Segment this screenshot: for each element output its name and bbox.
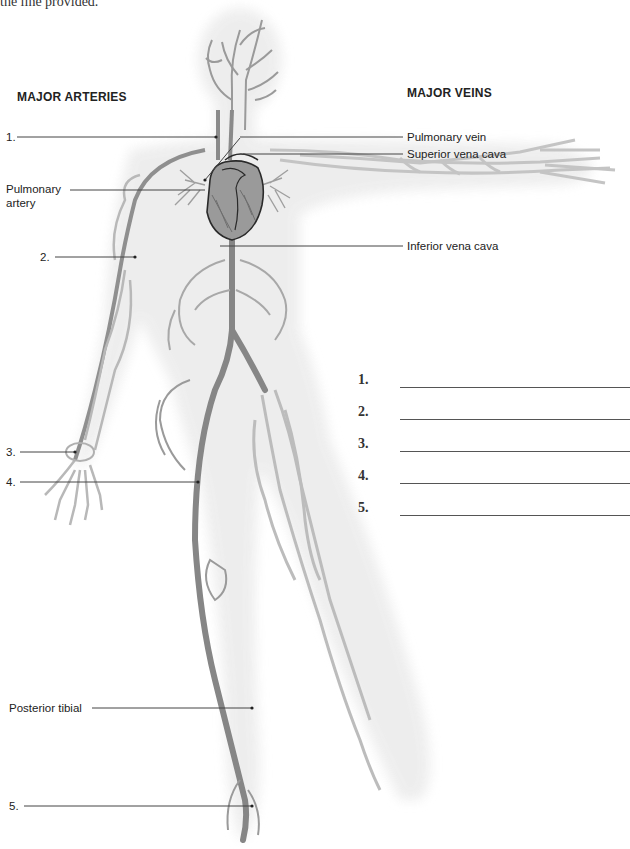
answer-input-1[interactable] bbox=[400, 372, 630, 388]
heading-major-veins: MAJOR VEINS bbox=[407, 86, 492, 100]
answer-input-2[interactable] bbox=[400, 404, 630, 420]
answer-row-5: 5. bbox=[358, 500, 630, 520]
answer-input-3[interactable] bbox=[400, 436, 630, 452]
body-silhouette bbox=[75, 8, 592, 840]
artery-label-2: 2. bbox=[40, 250, 50, 264]
artery-label-3: 3. bbox=[6, 445, 16, 459]
vein-label-superior-vena-cava: Superior vena cava bbox=[407, 147, 506, 161]
artery-label-4: 4. bbox=[6, 475, 16, 489]
answer-input-5[interactable] bbox=[400, 500, 630, 516]
answer-number: 5. bbox=[358, 500, 369, 516]
artery-label-pulmonary-artery: Pulmonary bbox=[6, 182, 61, 196]
answer-number: 2. bbox=[358, 404, 369, 420]
vein-label-inferior-vena-cava: Inferior vena cava bbox=[407, 239, 498, 253]
answer-row-3: 3. bbox=[358, 436, 630, 456]
artery-label-1: 1. bbox=[6, 130, 16, 144]
heading-major-arteries: MAJOR ARTERIES bbox=[17, 90, 127, 104]
artery-label-pulmonary-artery-line2: artery bbox=[6, 196, 35, 210]
answer-number: 1. bbox=[358, 372, 369, 388]
answer-input-4[interactable] bbox=[400, 468, 630, 484]
circulatory-system-illustration bbox=[0, 0, 630, 849]
artery-label-5: 5. bbox=[9, 799, 19, 813]
answer-number: 4. bbox=[358, 468, 369, 484]
answer-row-1: 1. bbox=[358, 372, 630, 392]
vein-label-pulmonary-vein: Pulmonary vein bbox=[407, 130, 486, 144]
answer-row-4: 4. bbox=[358, 468, 630, 488]
answer-number: 3. bbox=[358, 436, 369, 452]
artery-label-posterior-tibial: Posterior tibial bbox=[9, 701, 82, 715]
answer-row-2: 2. bbox=[358, 404, 630, 424]
